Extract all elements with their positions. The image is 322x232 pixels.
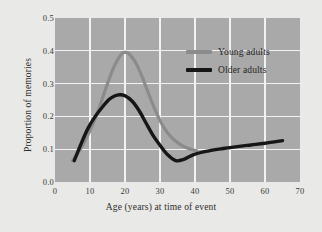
x-tick-label: 70 [296,186,305,196]
x-tick-label: 0 [53,186,57,196]
y-tick-label: 0.3 [43,79,54,89]
y-tick-label: 0.1 [43,144,54,154]
x-tick-label: 20 [121,186,130,196]
x-tick-label: 30 [156,186,165,196]
x-tick-label: 60 [261,186,270,196]
chart-figure: Proportion of memories 0.0 0.1 0.2 0.3 0… [0,0,322,232]
y-axis-title: Proportion of memories [23,30,33,180]
x-tick-label: 10 [86,186,95,196]
x-tick-label: 40 [191,186,200,196]
x-axis-title: Age (years) at time of event [0,202,322,212]
series-lines [55,18,300,182]
y-tick-label: 0.5 [43,13,54,23]
plot-area: Young adults Older adults [55,18,300,182]
y-tick-label: 0.2 [43,111,54,121]
series-older-adults [74,95,282,161]
y-tick-label: 0.4 [43,46,54,56]
x-tick-label: 50 [226,186,235,196]
